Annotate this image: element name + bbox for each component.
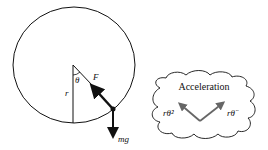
centripetal-accel-arrow (180, 104, 200, 121)
force-arrow (93, 87, 113, 109)
circular-track (13, 7, 135, 123)
pendulum-diagram: θ r F mg Acceleration rθ̇² rθ̈ (0, 0, 268, 150)
weight-label: mg (118, 134, 129, 144)
acceleration-title: Acceleration (178, 81, 229, 92)
force-label: F (92, 72, 99, 82)
tangential-accel-label: rθ̈ (227, 108, 239, 118)
centripetal-accel-label: rθ̇² (163, 108, 174, 118)
radius-label: r (65, 88, 69, 98)
theta-label: θ (75, 75, 80, 85)
tangential-accel-arrow (200, 103, 223, 121)
